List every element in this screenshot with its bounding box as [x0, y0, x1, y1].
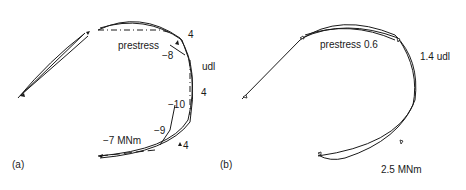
- udl-label-b: 1.4 udl: [420, 52, 450, 62]
- prestress-label-a: prestress: [118, 41, 159, 51]
- moment-value-neg7: −7 MNm: [103, 136, 141, 146]
- moment-value-neg8: −8: [162, 51, 173, 61]
- diagram-canvas: [0, 0, 466, 190]
- moment-value-neg10: −10: [168, 100, 185, 110]
- moment-label-b: 2.5 MNm: [381, 165, 422, 175]
- udl-label-a: udl: [202, 62, 215, 72]
- caption-a: (a): [12, 160, 24, 170]
- caption-b: (b): [220, 160, 232, 170]
- moment-value-neg9: −9: [154, 126, 165, 136]
- moment-value-mid-right-a: 4: [201, 88, 207, 98]
- moment-value-bottom-right-a: 4: [183, 141, 189, 151]
- moment-value-top-right-a: 4: [188, 30, 194, 40]
- prestress-label-b: prestress 0.6: [320, 40, 378, 50]
